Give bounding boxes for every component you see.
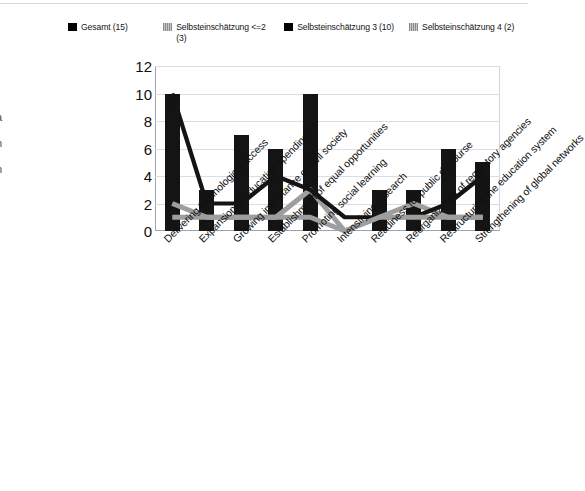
legend-item-label: Selbsteinschätzung <=2 (3)	[176, 22, 274, 43]
legend-swatch-icon	[163, 23, 172, 31]
legend-item-label: Selbsteinschätzung 3 (10)	[297, 22, 394, 33]
y-axis: 024681012	[112, 60, 152, 240]
y-tick-label: 12	[112, 59, 152, 74]
y-tick-label: 0	[112, 224, 152, 239]
y-tick-label: 4	[112, 169, 152, 184]
line-series-group	[155, 66, 500, 231]
line-series	[172, 217, 483, 231]
legend-item[interactable]: Selbsteinschätzung 3 (10)	[284, 22, 399, 33]
line-series	[172, 94, 483, 218]
legend-swatch-icon	[68, 23, 77, 31]
legend-item-label: Gesamt (15)	[81, 22, 128, 33]
legend-item[interactable]: Gesamt (15)	[68, 22, 153, 33]
legend-item-label: Selbsteinschätzung 4 (2)	[422, 22, 514, 33]
y-tick-label: 8	[112, 114, 152, 129]
y-tick-label: 2	[112, 197, 152, 212]
legend-swatch-icon	[284, 23, 293, 31]
chart-legend: Gesamt (15) Selbsteinschätzung <=2 (3) S…	[68, 22, 516, 43]
legend-item[interactable]: Selbsteinschätzung <=2 (3)	[163, 22, 274, 43]
y-tick-label: 10	[112, 87, 152, 102]
legend-item[interactable]: Selbsteinschätzung 4 (2)	[409, 22, 516, 33]
y-tick-label: 6	[112, 142, 152, 157]
plot-area	[155, 66, 500, 231]
legend-swatch-icon	[409, 23, 418, 31]
